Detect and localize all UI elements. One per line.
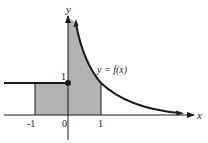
y-tick-1: 1	[61, 71, 66, 82]
x-tick-minus-1: -1	[27, 118, 35, 129]
function-graph: y x 1 -1 0 1 y = f(x)	[0, 0, 208, 143]
curve-label: y = f(x)	[96, 64, 128, 76]
x-axis-label: x	[196, 109, 202, 121]
x-tick-0: 0	[62, 118, 67, 129]
x-tick-1: 1	[98, 118, 103, 129]
shaded-region-left	[35, 83, 68, 115]
y-axis-label: y	[65, 3, 71, 15]
